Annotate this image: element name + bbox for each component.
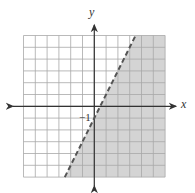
coordinate-plane bbox=[0, 0, 195, 193]
x-axis-label: x bbox=[181, 97, 186, 112]
y-axis-label: y bbox=[89, 5, 94, 20]
y-intercept-label: −1 bbox=[79, 111, 91, 123]
